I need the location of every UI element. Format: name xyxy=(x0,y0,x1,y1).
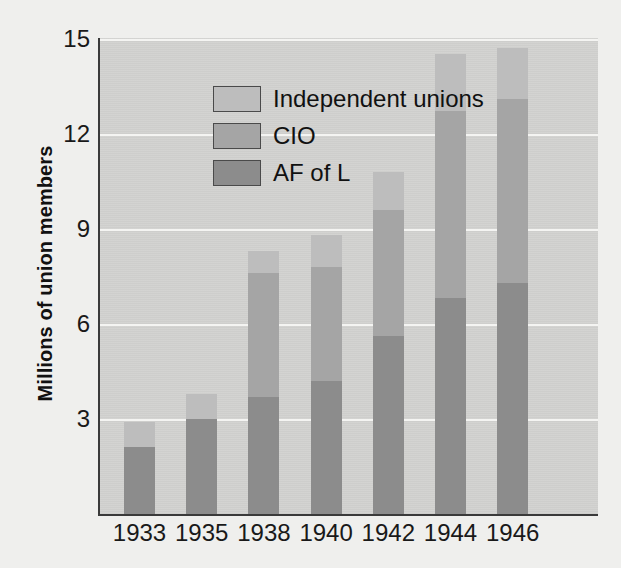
bar-segment-1933-ind xyxy=(124,422,155,447)
legend-item-cio: CIO xyxy=(213,123,484,149)
legend-swatch-cio xyxy=(213,123,261,149)
bar-segment-1942-cio xyxy=(373,210,404,337)
legend-label-cio: CIO xyxy=(273,124,316,148)
bar-segment-1942-afl xyxy=(373,336,404,514)
bar-segment-1938-afl xyxy=(248,397,279,514)
chart-figure: Independent unionsCIOAF of L Millions of… xyxy=(0,0,621,568)
bar-segment-1940-ind xyxy=(311,235,342,267)
legend-label-ind: Independent unions xyxy=(273,87,484,111)
x-axis-line xyxy=(98,514,598,516)
plot-area: Independent unionsCIOAF of L xyxy=(100,38,598,515)
legend-item-ind: Independent unions xyxy=(213,86,484,112)
y-tick-15: 15 xyxy=(46,27,90,51)
legend-label-afl: AF of L xyxy=(273,161,350,185)
bar-group-1946 xyxy=(497,37,528,514)
bar-segment-1935-ind xyxy=(186,394,217,419)
chart-legend: Independent unionsCIOAF of L xyxy=(213,86,484,186)
bar-segment-1946-cio xyxy=(497,99,528,283)
bar-segment-1938-cio xyxy=(248,273,279,397)
bar-segment-1938-ind xyxy=(248,251,279,273)
bar-group-1933 xyxy=(124,37,155,514)
y-axis-line xyxy=(98,38,100,515)
y-tick-12: 12 xyxy=(46,122,90,146)
bar-segment-1944-afl xyxy=(435,298,466,514)
bar-segment-1933-afl xyxy=(124,447,155,514)
bar-segment-1940-afl xyxy=(311,381,342,514)
legend-item-afl: AF of L xyxy=(213,160,484,186)
bar-segment-1940-cio xyxy=(311,267,342,381)
x-tick-1946: 1946 xyxy=(473,521,553,545)
legend-swatch-ind xyxy=(213,86,261,112)
legend-swatch-afl xyxy=(213,160,261,186)
y-tick-3: 3 xyxy=(46,407,90,431)
bar-segment-1946-ind xyxy=(497,48,528,99)
bar-segment-1935-afl xyxy=(186,419,217,514)
y-tick-6: 6 xyxy=(46,312,90,336)
y-tick-labels: 3691215 xyxy=(44,0,90,568)
y-tick-9: 9 xyxy=(46,217,90,241)
bar-segment-1946-afl xyxy=(497,283,528,514)
